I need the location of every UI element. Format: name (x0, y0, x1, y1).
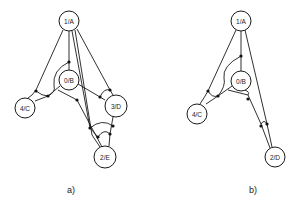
node-a-4C: 4/C (15, 98, 35, 118)
edge-a-4C-0B (36, 91, 48, 96)
junction-dot (108, 88, 111, 91)
junction-dot (96, 135, 99, 138)
node-b-0B: 0/B (231, 71, 251, 91)
panel-a: 1/A 0/B 4/C 3/D 2/E a) (15, 11, 127, 195)
junction-dot (108, 132, 111, 135)
node-a-3D: 3/D (105, 95, 127, 117)
junction-dot (111, 124, 114, 127)
node-label: 4/C (192, 111, 202, 118)
junction-dot (206, 89, 209, 92)
node-label: 2/D (270, 154, 280, 161)
node-label: 1/A (236, 18, 246, 25)
edge-a-3D-loop (100, 90, 110, 97)
node-label: 0/B (64, 77, 74, 84)
junction-dot (98, 95, 101, 98)
edge-a-2E-arc-inner (98, 132, 110, 137)
edge-b-0B-4C (218, 86, 232, 96)
junction-dot (259, 124, 262, 127)
panel-b-caption: b) (249, 185, 257, 195)
junction-dot (265, 122, 268, 125)
junction-dot (46, 94, 49, 97)
junction-dot (34, 89, 37, 92)
figure-canvas: 1/A 0/B 4/C 3/D 2/E a) (0, 0, 299, 199)
junction-dot (75, 98, 78, 101)
junction-dot (67, 60, 70, 63)
node-label: 2/E (100, 154, 110, 161)
junction-dot (216, 94, 219, 97)
edge-a-0B-2E (58, 90, 102, 147)
edge-b-1A-2D (245, 30, 272, 147)
node-a-2E: 2/E (94, 146, 116, 168)
node-label: 4/C (20, 105, 30, 112)
junction-dot (239, 54, 242, 57)
edge-b-1A-4C (200, 30, 236, 104)
junction-dot (88, 126, 91, 129)
junction-dot (246, 97, 249, 100)
node-label: 3/D (111, 103, 121, 110)
node-label: 0/B (236, 78, 246, 85)
panel-a-caption: a) (67, 185, 75, 195)
edge-a-2E-arc-outer (90, 122, 113, 128)
node-b-2D: 2/D (265, 147, 285, 167)
node-a-0B: 0/B (59, 70, 79, 90)
panel-b: 1/A 0/B 4/C 2/D b) (187, 11, 285, 195)
node-a-1A: 1/A (59, 11, 79, 31)
node-b-4C: 4/C (187, 104, 207, 124)
node-b-1A: 1/A (231, 11, 251, 31)
node-label: 1/A (64, 18, 74, 25)
edge-a-3D-2E (109, 117, 113, 146)
